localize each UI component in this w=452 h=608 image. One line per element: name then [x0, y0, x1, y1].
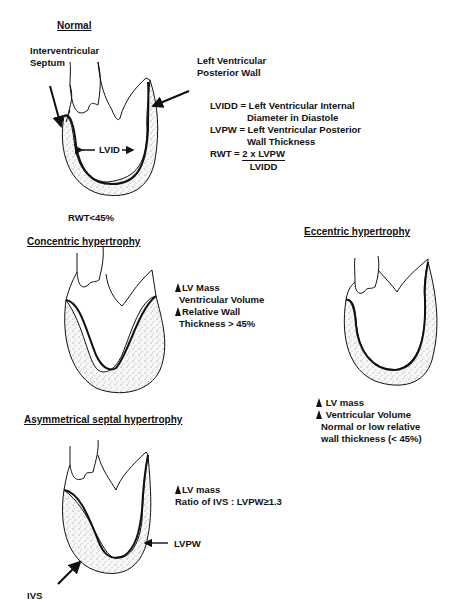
increase-arrow-icon [175, 283, 181, 292]
septum-label-line2: Septum [30, 57, 65, 69]
posterior-wall-label-line2: Posterior Wall [197, 67, 261, 79]
increase-arrow-icon [316, 398, 322, 407]
increase-arrow-icon [316, 410, 322, 419]
normal-rwt-label: RWT<45% [68, 212, 114, 224]
eccentric-title: Eccentric hypertrophy [304, 226, 410, 238]
lvid-label: LVID [99, 144, 120, 156]
eccentric-line1: LV mass [316, 397, 364, 409]
septum-label-line1: Interventricular [30, 45, 99, 57]
lvpw-label: LVPW [174, 538, 201, 550]
eccentric-line4: wall thickness (< 45%) [321, 433, 422, 445]
eccentric-line2: Ventricular Volume [316, 409, 411, 421]
increase-arrow-icon [175, 307, 181, 316]
rwt-numerator: 2 x LVPW [242, 148, 285, 161]
ivs-label: IVS [27, 590, 42, 602]
lvidd-definition-line2: Diameter in Diastole [247, 112, 338, 124]
lvidd-definition-line1: LVIDD = Left Ventricular Internal [210, 100, 355, 112]
asymmetrical-title: Asymmetrical septal hypertrophy [24, 414, 182, 426]
concentric-line1: LV Mass [175, 282, 220, 294]
posterior-wall-label-line1: Left Ventricular [197, 55, 266, 67]
asymmetrical-line1: LV mass [175, 484, 220, 496]
increase-arrow-icon [175, 485, 181, 494]
rwt-denominator: LVIDD [250, 161, 278, 172]
eccentric-line3: Normal or low relative [321, 421, 420, 433]
asymmetrical-heart-drawing [58, 440, 168, 584]
normal-title: Normal [57, 20, 91, 32]
lvpw-definition-line2: Wall Thickness [247, 136, 315, 148]
concentric-title: Concentric hypertrophy [27, 236, 140, 248]
concentric-heart-drawing [65, 247, 165, 393]
rwt-formula: RWT = 2 x LVPWLVIDD [210, 148, 285, 173]
rwt-formula-prefix: RWT = [210, 148, 242, 159]
lvpw-definition-line1: LVPW = Left Ventricular Posterior [210, 124, 361, 136]
rwt-fraction: 2 x LVPWLVIDD [242, 148, 285, 173]
eccentric-heart-drawing [344, 256, 437, 385]
normal-heart-drawing [50, 62, 189, 196]
concentric-line3: Relative Wall [175, 306, 240, 318]
concentric-line2: Ventricular Volume [179, 294, 264, 306]
concentric-line4: Thickness > 45% [179, 318, 255, 330]
asymmetrical-line2: Ratio of IVS : LVPW≥1.3 [175, 496, 282, 508]
